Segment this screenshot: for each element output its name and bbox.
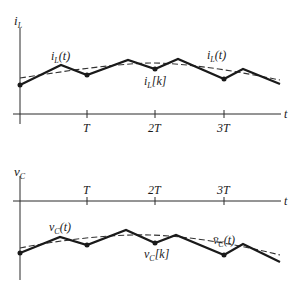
bottom-sample-label: vC[k] (144, 247, 170, 263)
bottom-sample-point (85, 243, 90, 248)
top-waveform-label: iL(t) (51, 49, 70, 65)
top-sample-label: iL[k] (144, 74, 167, 90)
bottom-tick-label-T: T (83, 183, 91, 197)
sampled-waveform-diagram: iL t T 2T 3T iL(t) iL[k] iL(t) vC t T 2T… (0, 0, 301, 289)
bottom-y-axis-label: vC (14, 164, 26, 181)
top-tick-label-T: T (83, 121, 91, 135)
top-sample-point (222, 77, 227, 82)
bottom-average-label: v̄C(t) (213, 233, 235, 249)
top-sample-point (153, 67, 158, 72)
top-plot: iL t T 2T 3T iL(t) iL[k] iL(t) (13, 13, 288, 135)
top-y-axis-label: iL (14, 13, 23, 30)
bottom-tick-label-3T: 3T (216, 183, 231, 197)
top-tick-label-3T: 3T (216, 121, 231, 135)
top-sample-point (18, 83, 23, 88)
bottom-sample-point (222, 253, 227, 258)
bottom-sample-point (153, 241, 158, 246)
bottom-plot: vC t T 2T 3T vC(t) vC[k] v̄C(t) (13, 164, 288, 280)
bottom-tick-label-2T: 2T (148, 183, 162, 197)
bottom-x-axis-label: t (284, 194, 288, 208)
bottom-sample-point (18, 251, 23, 256)
top-average-label: iL(t) (207, 48, 226, 64)
top-tick-label-2T: 2T (148, 121, 162, 135)
top-x-axis-label: t (284, 107, 288, 121)
bottom-waveform-label: vC(t) (49, 220, 71, 236)
top-sample-point (85, 73, 90, 78)
